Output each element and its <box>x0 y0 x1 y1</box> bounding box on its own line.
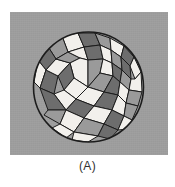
figure-root: (A) <box>0 0 175 187</box>
figure-caption: (A) <box>0 160 175 172</box>
